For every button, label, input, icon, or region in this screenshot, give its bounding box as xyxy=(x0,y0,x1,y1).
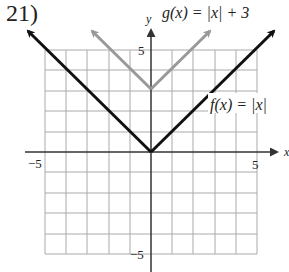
graph-g-right-ray xyxy=(151,31,210,89)
coordinate-plane: x y −5 5 5 −5 g(x) = |x| + 3 f(x) = |x| xyxy=(0,0,289,272)
g-function-label: g(x) = |x| + 3 xyxy=(162,4,249,22)
y-max-tick-label: 5 xyxy=(138,43,145,58)
graph-g-left-ray xyxy=(92,31,151,89)
x-axis-label: x xyxy=(283,145,289,159)
y-axis-label: y xyxy=(145,12,152,26)
x-min-tick-label: −5 xyxy=(28,156,42,171)
f-function-label: f(x) = |x| xyxy=(210,96,267,114)
y-min-tick-label: −5 xyxy=(130,247,144,262)
x-max-tick-label: 5 xyxy=(252,157,259,172)
